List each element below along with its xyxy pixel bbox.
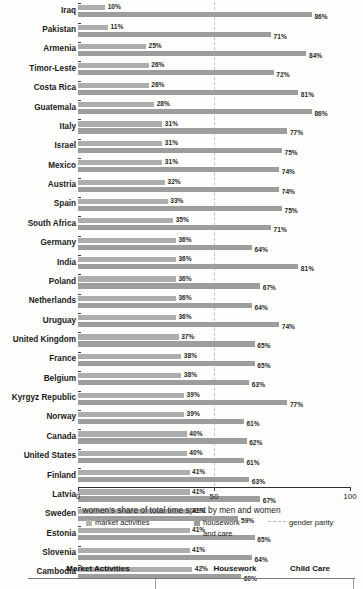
- bar-value-label: 77%: [290, 129, 303, 136]
- category-label: India: [0, 258, 76, 268]
- legend-label-housework: housework: [203, 518, 240, 527]
- bar-market: [78, 44, 146, 49]
- category-tick: [78, 449, 81, 450]
- bar-value-label: 35%: [176, 216, 189, 223]
- bar-value-label: 64%: [255, 304, 268, 311]
- bar-housework: [78, 206, 282, 211]
- bar-market: [78, 199, 168, 204]
- bar-housework: [78, 128, 287, 133]
- bar-market: [78, 393, 184, 398]
- bar-value-label: 61%: [246, 420, 259, 427]
- bar-value-label: 33%: [170, 197, 183, 204]
- category-label: Netherlands: [0, 296, 76, 306]
- bar-market: [78, 180, 165, 185]
- chart-row: France38%65%: [0, 351, 363, 370]
- category-tick: [78, 216, 81, 217]
- category-label: Belgium: [0, 374, 76, 384]
- category-tick: [78, 158, 81, 159]
- x-tick-label: 100: [340, 492, 360, 501]
- bar-housework: [78, 283, 260, 288]
- category-label: Germany: [0, 238, 76, 248]
- category-label: Latvia: [0, 490, 76, 500]
- bar-market: [78, 238, 176, 243]
- bar-value-label: 40%: [189, 449, 202, 456]
- chart-row: Italy31%77%: [0, 118, 363, 137]
- x-tick: [78, 487, 79, 491]
- chart-row: Guatemala28%86%: [0, 99, 363, 118]
- bar-housework: [78, 380, 249, 385]
- table-header-rule: [28, 578, 355, 579]
- chart-row: Austria32%74%: [0, 177, 363, 196]
- category-label: Finland: [0, 471, 76, 481]
- bar-housework: [78, 496, 260, 501]
- bar-value-label: 25%: [149, 42, 162, 49]
- bottom-table-header: Market ActivitiesHouseworkChild Care: [0, 550, 363, 589]
- bar-housework: [78, 245, 252, 250]
- bar-market: [78, 296, 176, 301]
- category-tick: [78, 255, 81, 256]
- bar-value-label: 61%: [246, 459, 259, 466]
- bar-housework: [78, 90, 298, 95]
- chart-row: Israel31%75%: [0, 138, 363, 157]
- bar-housework: [78, 148, 282, 153]
- category-tick: [78, 61, 81, 62]
- legend-item-gender-parity: gender parity: [268, 518, 333, 527]
- chart-row: Pakistan11%71%: [0, 22, 363, 41]
- bar-housework: [78, 12, 312, 17]
- chart-legend: market activities housework and care gen…: [78, 518, 350, 542]
- bar-market: [78, 412, 184, 417]
- category-label: Costa Rica: [0, 83, 76, 93]
- bar-value-label: 10%: [108, 3, 121, 10]
- category-tick: [78, 100, 81, 101]
- category-tick: [78, 42, 81, 43]
- bar-housework: [78, 322, 279, 327]
- category-label: South Africa: [0, 219, 76, 229]
- chart-row: Iraq10%86%: [0, 2, 363, 21]
- bar-value-label: 36%: [178, 255, 191, 262]
- category-tick: [78, 81, 81, 82]
- bar-value-label: 77%: [290, 401, 303, 408]
- bar-housework: [78, 167, 279, 172]
- bar-value-label: 37%: [181, 333, 194, 340]
- table-header-market-activities: Market Activities: [48, 564, 148, 573]
- bar-market: [78, 102, 154, 107]
- category-label: United Kingdom: [0, 335, 76, 345]
- category-label: Norway: [0, 412, 76, 422]
- chart-row: Finland41%63%: [0, 467, 363, 486]
- chart-row: Costa Rica26%81%: [0, 80, 363, 99]
- bar-value-label: 31%: [165, 158, 178, 165]
- bar-value-label: 36%: [178, 236, 191, 243]
- bar-market: [78, 5, 105, 10]
- category-tick: [78, 3, 81, 4]
- chart-row: Latvia41%67%: [0, 486, 363, 505]
- chart-row: Germany36%64%: [0, 235, 363, 254]
- bar-value-label: 74%: [282, 323, 295, 330]
- bar-market: [78, 451, 187, 456]
- legend-label-parity: gender parity: [289, 518, 333, 527]
- x-tick: [350, 487, 351, 491]
- table-column-divider: [353, 579, 354, 589]
- bar-value-label: 31%: [165, 120, 178, 127]
- bar-value-label: 36%: [178, 275, 191, 282]
- category-label: Armenia: [0, 44, 76, 54]
- bar-housework: [78, 51, 306, 56]
- category-tick: [78, 139, 81, 140]
- table-column-divider: [155, 579, 156, 589]
- bar-market: [78, 354, 181, 359]
- chart-row: Canada40%62%: [0, 428, 363, 447]
- legend-dash-parity-icon: [268, 521, 286, 522]
- bar-market: [78, 431, 187, 436]
- bar-value-label: 39%: [187, 410, 200, 417]
- bar-value-label: 40%: [189, 430, 202, 437]
- chart-row: United Kingdom37%65%: [0, 331, 363, 350]
- category-tick: [78, 119, 81, 120]
- category-label: Kyrgyz Republic: [0, 393, 76, 403]
- bar-housework: [78, 109, 312, 114]
- bar-value-label: 72%: [276, 71, 289, 78]
- bar-value-label: 81%: [301, 265, 314, 272]
- chart-row: Poland36%67%: [0, 273, 363, 292]
- category-tick: [78, 429, 81, 430]
- bar-value-label: 26%: [151, 61, 164, 68]
- bar-housework: [78, 264, 298, 269]
- category-label: France: [0, 354, 76, 364]
